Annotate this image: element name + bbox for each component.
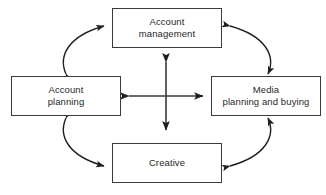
curved-arrow-bottom-right [230,118,271,166]
node-creative[interactable]: Creative [112,143,222,183]
center-cross-arrows [129,62,203,130]
curved-arrow-top-right [230,26,271,74]
curved-arrow-top-left [63,26,104,74]
node-account-management[interactable]: Account management [112,8,222,48]
node-account-management-label: Account management [139,16,195,40]
node-media-planning[interactable]: Media planning and buying [211,76,321,116]
cycle-diagram: Account management Account planning Medi… [0,0,326,195]
node-media-planning-label: Media planning and buying [223,84,310,108]
node-creative-label: Creative [149,157,185,169]
node-account-planning[interactable]: Account planning [11,76,121,116]
curved-arrow-bottom-left [63,118,104,166]
node-account-planning-label: Account planning [48,84,85,108]
